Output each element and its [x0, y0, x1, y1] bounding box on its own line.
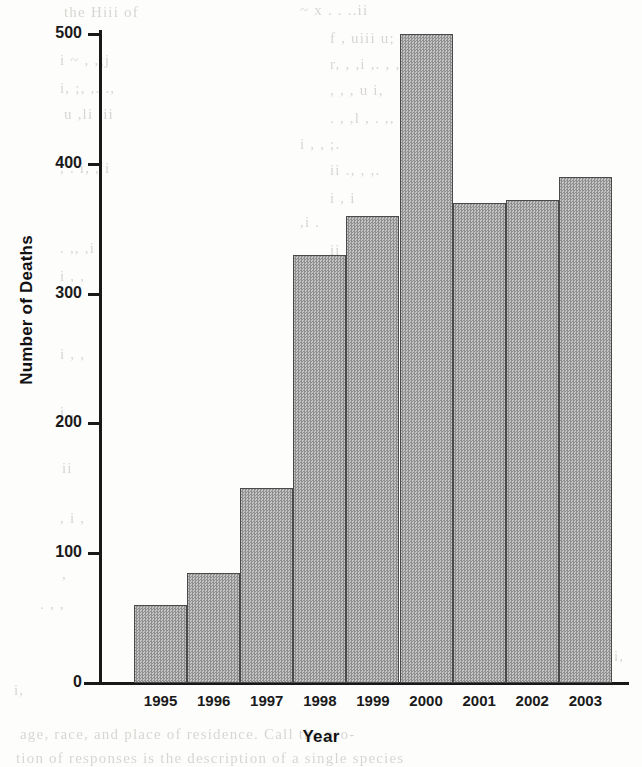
- bar-series: [0, 0, 642, 767]
- bar: [293, 255, 346, 683]
- x-axis-tick-label: 1998: [290, 692, 350, 709]
- x-axis-tick-label: 1995: [131, 692, 191, 709]
- bar: [187, 573, 240, 683]
- bar: [453, 203, 506, 683]
- x-axis-tick-label: 1996: [184, 692, 244, 709]
- scanned-page: the Hiii of~ x . . ..iif , uiii u;i ~ , …: [0, 0, 642, 767]
- x-axis-tick-label: 1999: [343, 692, 403, 709]
- bar: [400, 34, 453, 683]
- histogram-chart: 0100200300400500 19951996199719981999200…: [0, 0, 642, 767]
- x-axis-tick-label: 2001: [449, 692, 509, 709]
- bar: [346, 216, 399, 683]
- x-axis-tick-label: 1997: [237, 692, 297, 709]
- bar: [506, 200, 559, 683]
- y-axis-title: Number of Deaths: [17, 210, 37, 410]
- x-axis-title: Year: [0, 727, 642, 747]
- x-axis-tick-label: 2003: [555, 692, 615, 709]
- bar: [134, 605, 187, 683]
- x-axis-tick-label: 2000: [396, 692, 456, 709]
- x-axis-tick-label: 2002: [502, 692, 562, 709]
- bar: [559, 177, 612, 683]
- bar: [240, 488, 293, 683]
